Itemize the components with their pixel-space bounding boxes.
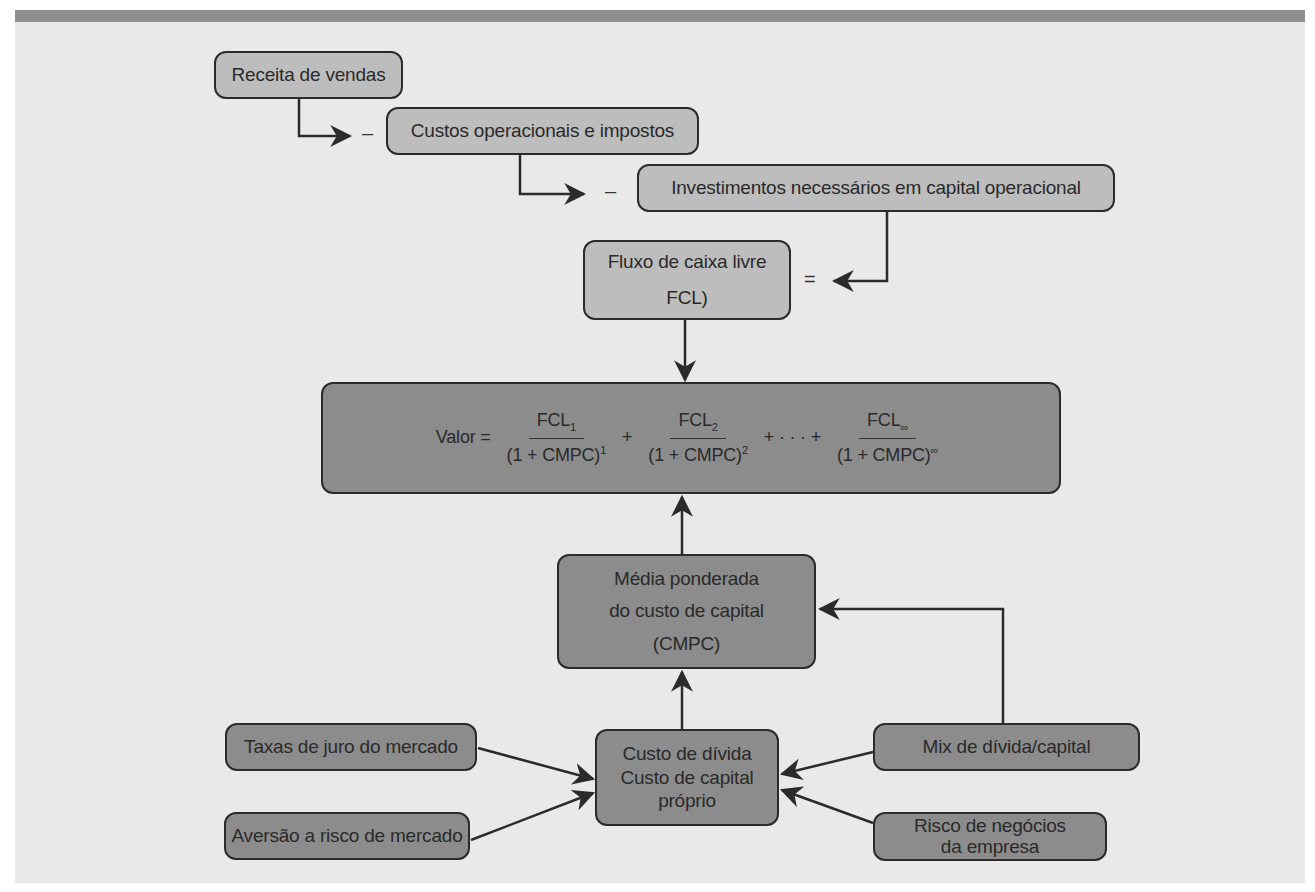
term-inf-subscript: ∞ [900, 420, 908, 432]
connector-mix-to-wacc [820, 609, 1003, 723]
wacc-line3: (CMPC) [653, 628, 720, 660]
term-inf-denominator: (1 + CMPC) [837, 445, 931, 465]
free-cash-flow-line1: Fluxo de caixa livre [608, 244, 767, 280]
formula-term-1: FCL1 (1 + CMPC)1 [499, 409, 614, 467]
term-2-denominator: (1 + CMPC) [648, 445, 742, 465]
equals-operator: = [804, 268, 816, 291]
term-1-numerator: FCL [537, 410, 570, 430]
free-cash-flow-box: Fluxo de caixa livre FCL) [583, 240, 791, 320]
term-1-exponent: 1 [600, 444, 606, 456]
sales-revenue-box: Receita de vendas [214, 51, 403, 99]
required-investments-box: Investimentos necessários em capital ope… [637, 164, 1115, 212]
cost-of-debt-label: Custo de dívida [622, 742, 751, 766]
formula-lhs: Valor = [436, 426, 491, 449]
market-interest-rates-label: Taxas de juro do mercado [244, 735, 458, 760]
connector-investments-to-fcl [834, 212, 887, 281]
connector-costs-to-investments [520, 155, 584, 194]
connector-revenue-to-costs [299, 99, 350, 136]
connector-aversion-to-cost [471, 793, 593, 840]
formula-plus: + [622, 426, 632, 449]
connector-mix-to-cost [782, 752, 873, 774]
connector-risk-to-cost [782, 790, 873, 823]
term-1-denominator: (1 + CMPC) [507, 445, 601, 465]
market-interest-rates-box: Taxas de juro do mercado [225, 723, 477, 771]
wacc-line1: Média ponderada [614, 563, 759, 595]
business-risk-box: Risco de negócios da empresa [873, 812, 1107, 861]
business-risk-line2: da empresa [941, 837, 1039, 858]
business-risk-line1: Risco de negócios [914, 816, 1066, 837]
cost-of-equity-label-2: próprio [658, 789, 716, 813]
required-investments-label: Investimentos necessários em capital ope… [671, 176, 1081, 201]
wacc-box: Média ponderada do custo de capital (CMP… [557, 554, 816, 669]
debt-equity-mix-label: Mix de dívida/capital [923, 735, 1091, 760]
term-2-exponent: 2 [742, 444, 748, 456]
formula-term-infinity: FCL∞ (1 + CMPC)∞ [829, 409, 946, 467]
cost-of-capital-box: Custo de dívida Custo de capital próprio [595, 729, 779, 826]
term-2-subscript: 2 [712, 420, 718, 432]
term-inf-exponent: ∞ [931, 444, 939, 456]
term-1-subscript: 1 [570, 420, 576, 432]
formula-term-2: FCL2 (1 + CMPC)2 [640, 409, 755, 467]
market-risk-aversion-label: Aversão a risco de mercado [231, 824, 462, 849]
sales-revenue-label: Receita de vendas [232, 63, 386, 88]
value-formula: Valor = FCL1 (1 + CMPC)1 + FCL2 (1 + CMP… [436, 409, 946, 467]
wacc-line2: do custo de capital [609, 595, 764, 627]
operating-costs-box: Custos operacionais e impostos [386, 107, 699, 155]
connector-rates-to-cost [478, 748, 593, 779]
free-cash-flow-line2: FCL) [666, 280, 707, 316]
cost-of-equity-label-1: Custo de capital [620, 766, 753, 790]
formula-ellipsis: + · · · + [764, 426, 821, 449]
debt-equity-mix-box: Mix de dívida/capital [873, 723, 1140, 771]
minus-operator-2: – [605, 180, 616, 203]
operating-costs-label: Custos operacionais e impostos [411, 119, 674, 144]
term-2-numerator: FCL [678, 410, 711, 430]
value-formula-box: Valor = FCL1 (1 + CMPC)1 + FCL2 (1 + CMP… [321, 382, 1061, 494]
term-inf-numerator: FCL [867, 410, 900, 430]
market-risk-aversion-box: Aversão a risco de mercado [224, 812, 470, 860]
minus-operator-1: – [362, 122, 373, 145]
